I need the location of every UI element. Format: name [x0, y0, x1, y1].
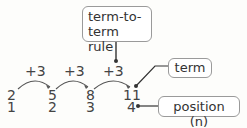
rule-label-line2: term rule	[88, 24, 146, 54]
step-3: +3	[103, 64, 124, 78]
term-to-term-rule-label: term-to- term rule	[82, 6, 152, 42]
step-2: +3	[64, 64, 85, 78]
position-3: 3	[86, 100, 95, 114]
sequence-diagram: term-to- term rule term position (n) +3 …	[0, 0, 247, 128]
step-1: +3	[25, 64, 46, 78]
term-label: term	[168, 58, 212, 78]
position-4: 4	[127, 100, 136, 114]
position-2: 2	[48, 100, 57, 114]
rule-label-line1: term-to-	[88, 9, 146, 24]
position-label: position (n)	[158, 96, 240, 117]
position-1: 1	[7, 100, 16, 114]
term-label-text: term	[175, 60, 206, 75]
